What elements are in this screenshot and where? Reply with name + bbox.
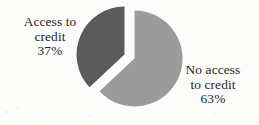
pie-chart-figure: Access to credit 37% No access to credit… [0, 0, 259, 125]
slice-label-access-line-1: Access to [8, 15, 92, 30]
slice-label-access-to-credit: Access to credit 37% [8, 15, 92, 59]
slice-label-access-percent: 37% [8, 44, 92, 59]
slice-label-no-access-percent: 63% [170, 92, 256, 107]
slice-label-no-access-line-1: No access [170, 63, 256, 78]
slice-label-access-line-2: credit [8, 30, 92, 45]
slice-label-no-access-line-2: to credit [170, 78, 256, 93]
slice-label-no-access-to-credit: No access to credit 63% [170, 63, 256, 107]
